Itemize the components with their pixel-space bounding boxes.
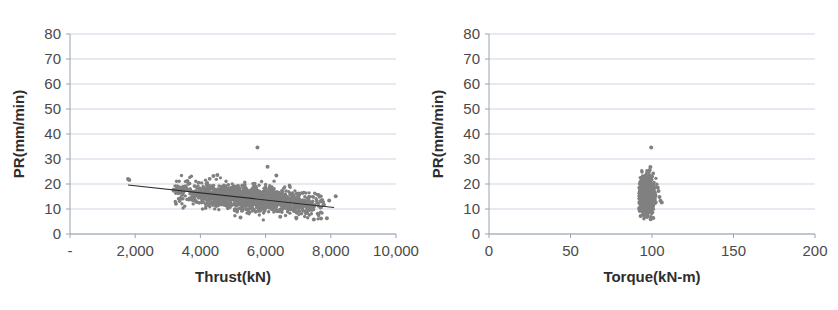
data-point	[191, 202, 194, 205]
data-point	[248, 207, 251, 210]
data-point	[647, 181, 650, 184]
data-point-outlier	[274, 174, 278, 178]
data-point	[290, 207, 293, 210]
data-point	[643, 203, 646, 206]
x-tick-label: -	[68, 242, 73, 259]
data-point	[242, 187, 245, 190]
chart-canvas-thrust: 01020304050607080-2,0004,0006,0008,00010…	[0, 0, 419, 300]
data-point	[270, 190, 273, 193]
data-point	[259, 201, 262, 204]
data-point	[253, 184, 256, 187]
data-point-outlier	[657, 189, 661, 193]
data-point	[288, 184, 291, 187]
data-point	[201, 207, 204, 210]
data-point	[272, 179, 275, 182]
data-point	[233, 214, 236, 217]
data-point	[200, 181, 203, 184]
data-point	[260, 180, 263, 183]
data-point	[220, 185, 223, 188]
data-point	[238, 187, 241, 190]
data-point	[647, 204, 650, 207]
data-point	[224, 180, 227, 183]
data-point	[239, 193, 242, 196]
y-tick-label: 70	[44, 50, 61, 67]
x-tick-label: 8,000	[312, 242, 350, 259]
data-point	[175, 180, 178, 183]
data-point	[190, 175, 193, 178]
y-tick-label: 30	[463, 150, 480, 167]
data-point	[281, 190, 284, 193]
data-point	[215, 178, 218, 181]
data-point-outlier	[278, 215, 282, 219]
data-point	[244, 208, 247, 211]
x-axis-ticks-group: -2,0004,0006,0008,00010,000	[68, 234, 419, 259]
data-point	[243, 183, 246, 186]
data-point	[301, 209, 304, 212]
data-point	[232, 203, 235, 206]
data-point-outlier	[239, 216, 243, 220]
data-point-outlier	[334, 194, 338, 198]
data-point-outlier	[660, 201, 664, 205]
data-point	[196, 194, 199, 197]
y-axis-title: PR(mm/min)	[429, 90, 446, 178]
data-point	[206, 187, 209, 190]
data-point	[207, 199, 210, 202]
data-point	[219, 176, 222, 179]
data-point	[257, 207, 260, 210]
data-point	[183, 204, 186, 207]
data-point	[209, 196, 212, 199]
chart-canvas-torque: 01020304050607080050100150200Torque(kN-m…	[419, 0, 838, 300]
data-point	[285, 197, 288, 200]
data-point	[308, 213, 311, 216]
data-point	[295, 216, 298, 219]
data-point-outlier	[648, 168, 652, 172]
data-point	[180, 174, 183, 177]
data-point	[233, 209, 236, 212]
data-point	[246, 199, 249, 202]
data-point	[210, 201, 213, 204]
data-point	[273, 194, 276, 197]
data-point-outlier	[656, 186, 660, 190]
data-point	[261, 207, 264, 210]
data-point	[291, 196, 294, 199]
data-point	[258, 213, 261, 216]
y-tick-label: 0	[53, 225, 61, 242]
caption-strip	[0, 296, 838, 310]
data-point	[197, 181, 200, 184]
data-point	[283, 185, 286, 188]
data-point	[646, 192, 649, 195]
data-point	[271, 206, 274, 209]
data-point	[312, 208, 315, 211]
data-point	[645, 188, 648, 191]
data-point	[300, 191, 303, 194]
data-point	[645, 199, 648, 202]
data-point	[217, 208, 220, 211]
data-point	[317, 212, 320, 215]
data-point	[181, 197, 184, 200]
data-point	[284, 205, 287, 208]
data-point	[272, 210, 275, 213]
data-point	[304, 191, 307, 194]
data-point	[250, 192, 253, 195]
data-point	[208, 177, 211, 180]
data-point-outlier	[211, 174, 215, 178]
data-point	[315, 199, 318, 202]
data-point-outlier	[327, 199, 331, 203]
x-tick-label: 10,000	[373, 242, 419, 259]
x-tick-label: 6,000	[247, 242, 285, 259]
data-point	[177, 197, 180, 200]
data-point	[234, 185, 237, 188]
data-point	[307, 195, 310, 198]
y-tick-label: 80	[463, 25, 480, 42]
data-point	[284, 194, 287, 197]
data-point	[231, 190, 234, 193]
data-point	[286, 210, 289, 213]
data-point	[258, 190, 261, 193]
data-point	[187, 198, 190, 201]
data-point	[311, 200, 314, 203]
data-point-outlier	[649, 217, 653, 221]
data-point	[645, 209, 648, 212]
data-point-outlier	[127, 178, 131, 182]
data-point-outlier	[325, 216, 329, 220]
data-point	[197, 201, 200, 204]
